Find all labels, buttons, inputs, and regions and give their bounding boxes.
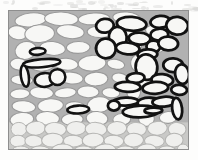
scan-speckle — [125, 3, 134, 5]
scan-speckle — [11, 3, 14, 5]
scan-speckle — [12, 0, 15, 4]
grain-ellipse — [115, 82, 141, 93]
scan-speckle — [39, 3, 45, 5]
scan-speckle — [142, 1, 147, 3]
scan-speckle — [104, 6, 108, 8]
grain-group-basal — [10, 121, 188, 149]
scan-speckle — [141, 6, 146, 10]
scan-speckle — [114, 5, 117, 8]
scan-speckle — [188, 6, 197, 9]
grain-ellipse — [95, 37, 117, 59]
scan-speckle — [110, 4, 114, 8]
scan-speckle — [153, 5, 163, 9]
grain-ellipse — [66, 41, 90, 54]
scan-speckle — [171, 1, 173, 5]
grain-ellipse — [10, 135, 26, 147]
scan-speckle — [193, 7, 198, 11]
scan-speckle — [100, 4, 108, 6]
grain-ellipse — [11, 122, 27, 136]
scan-speckle — [70, 4, 79, 8]
grain-ellipse — [108, 101, 120, 111]
scan-speckle — [37, 2, 45, 5]
scan-speckle — [184, 4, 191, 6]
grain-ellipse — [144, 107, 162, 114]
scan-speckle — [40, 1, 50, 4]
grain-ellipse — [115, 42, 140, 56]
grain-canvas — [9, 11, 188, 149]
grain-ellipse — [50, 69, 66, 85]
grain-ellipse — [67, 105, 89, 114]
scan-speckle — [128, 4, 139, 6]
scan-speckle — [133, 2, 139, 6]
scan-speckle — [67, 2, 74, 4]
scan-speckle — [70, 7, 79, 8]
figure-root — [0, 0, 198, 160]
grain-ellipse — [84, 72, 108, 87]
scan-speckle — [76, 3, 87, 5]
scan-noise-band — [0, 0, 198, 10]
grain-ellipse — [174, 64, 188, 85]
grain-ellipse — [158, 36, 179, 51]
grain-ellipse — [142, 81, 168, 94]
scan-speckle — [42, 1, 50, 4]
grain-ellipse — [30, 47, 46, 55]
scan-speckle — [88, 1, 95, 5]
scan-speckle — [139, 2, 148, 4]
scan-speckle — [192, 7, 198, 10]
scan-speckle — [190, 8, 198, 12]
scan-speckle — [92, 3, 96, 4]
scan-speckle — [108, 4, 111, 6]
grain-ellipse — [171, 84, 187, 95]
scan-speckle — [117, 2, 124, 5]
micrograph-plate — [8, 10, 189, 150]
scan-speckle — [98, 0, 105, 3]
scan-speckle — [53, 4, 63, 6]
grain-ellipse — [77, 86, 99, 99]
scan-speckle — [3, 1, 9, 4]
scan-speckle — [94, 1, 97, 3]
scan-speckle — [76, 0, 83, 3]
grain-ellipse — [66, 121, 86, 135]
